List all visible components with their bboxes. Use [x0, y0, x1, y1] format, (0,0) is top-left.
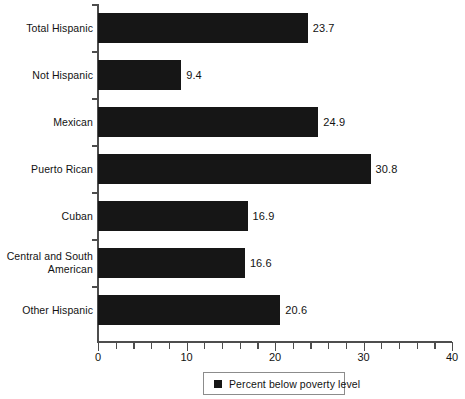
category-label-line: Mexican [0, 115, 93, 128]
x-axis-minor-tick [434, 342, 435, 349]
bar-row: Mexican24.9 [0, 98, 465, 145]
x-axis-major-tick [187, 342, 188, 351]
x-axis-major-tick [364, 342, 365, 351]
x-axis-minor-tick [293, 342, 294, 349]
bar [98, 60, 181, 90]
x-axis-minor-tick [310, 342, 311, 349]
bar-value-label: 23.7 [313, 22, 335, 34]
category-label: Central and SouthAmerican [0, 250, 93, 276]
x-axis-minor-tick [116, 342, 117, 349]
bar [98, 154, 371, 184]
y-axis-tick [92, 145, 98, 147]
x-axis-minor-tick [381, 342, 382, 349]
category-label: Total Hispanic [0, 21, 93, 34]
category-label-line: Total Hispanic [0, 21, 93, 34]
x-axis-minor-tick [204, 342, 205, 349]
bar-row: Cuban16.9 [0, 192, 465, 239]
x-axis-minor-tick [222, 342, 223, 349]
y-axis-tick [92, 98, 98, 100]
y-axis-tick [92, 192, 98, 194]
bar [98, 107, 318, 137]
y-axis-tick [92, 239, 98, 241]
x-axis-minor-tick [257, 342, 258, 349]
category-label-line: American [0, 263, 93, 276]
x-axis-minor-tick [328, 342, 329, 349]
bar [98, 248, 245, 278]
category-label-line: Central and South [0, 250, 93, 263]
category-label: Puerto Rican [0, 162, 93, 175]
y-axis-tick [92, 286, 98, 288]
bar [98, 295, 280, 325]
x-axis-minor-tick [169, 342, 170, 349]
bar [98, 201, 248, 231]
x-axis-minor-tick [240, 342, 241, 349]
category-label: Other Hispanic [0, 303, 93, 316]
x-axis-tick-label: 0 [95, 351, 101, 363]
bar-row: Central and SouthAmerican16.6 [0, 239, 465, 286]
bar-row: Total Hispanic23.7 [0, 4, 465, 51]
bar-value-label: 20.6 [285, 304, 307, 316]
legend-label: Percent below poverty level [229, 378, 360, 390]
category-label-line: Not Hispanic [0, 68, 93, 81]
bar-chart: Total Hispanic23.7Not Hispanic9.4Mexican… [0, 0, 465, 399]
y-axis-tick [92, 4, 98, 6]
legend: Percent below poverty level [203, 372, 345, 395]
x-axis-major-tick [452, 342, 453, 351]
bar [98, 13, 308, 43]
bar-row: Other Hispanic20.6 [0, 286, 465, 333]
bar-value-label: 24.9 [323, 116, 345, 128]
bar-value-label: 16.6 [250, 257, 272, 269]
x-axis-minor-tick [399, 342, 400, 349]
x-axis-tick-label: 10 [180, 351, 192, 363]
bar-value-label: 9.4 [186, 69, 202, 81]
bar-value-label: 30.8 [376, 163, 398, 175]
category-label-line: Cuban [0, 209, 93, 222]
x-axis-major-tick [275, 342, 276, 351]
bar-row: Puerto Rican30.8 [0, 145, 465, 192]
category-label: Mexican [0, 115, 93, 128]
x-axis-major-tick [98, 342, 99, 351]
y-axis-tick [92, 51, 98, 53]
x-axis-minor-tick [346, 342, 347, 349]
x-axis-minor-tick [133, 342, 134, 349]
category-label: Cuban [0, 209, 93, 222]
x-axis-tick-label: 20 [269, 351, 281, 363]
x-axis-minor-tick [417, 342, 418, 349]
category-label-line: Puerto Rican [0, 162, 93, 175]
category-label: Not Hispanic [0, 68, 93, 81]
bar-value-label: 16.9 [253, 210, 275, 222]
category-label-line: Other Hispanic [0, 303, 93, 316]
bar-row: Not Hispanic9.4 [0, 51, 465, 98]
x-axis-tick-label: 40 [446, 351, 458, 363]
legend-swatch-icon [214, 380, 222, 388]
x-axis-tick-label: 30 [357, 351, 369, 363]
x-axis-minor-tick [151, 342, 152, 349]
